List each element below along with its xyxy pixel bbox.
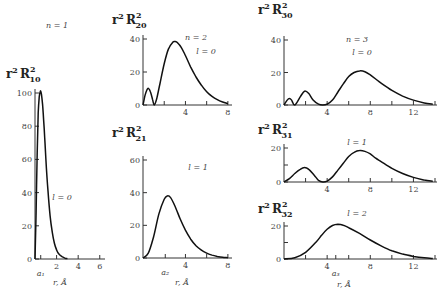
x-tick-label: 4 [183,261,188,270]
panel-r10: 020406080100a₁246r2R210n = 1l = 0r, Å [6,21,105,287]
x-axis-label: r, Å [337,280,351,289]
y-tick-label: 0 [276,178,281,187]
annotation-l: l = 0 [52,193,71,202]
y-tick-label: 0 [27,255,32,264]
y-tick-label: 60 [130,156,140,165]
series-line-r30 [284,71,433,105]
panel-r21: 0204060a₂48r2R221l = 1r, Å [112,123,232,287]
x-tick-label: 4 [76,262,81,271]
y-tick-label: 0 [276,255,281,264]
x-tick-label: 4 [325,262,330,271]
x-tick-label: 8 [368,262,373,271]
x-tick-label: 12 [408,108,418,117]
y-tick-label: 80 [22,122,32,131]
panel-title: n = 1 [46,21,68,30]
x-axis-label: r, Å [53,278,67,287]
series-line-r31 [284,151,433,182]
annotation-l: l = 0 [196,47,215,56]
x-tick-label: 12 [408,185,418,194]
y-tick-label: 40 [130,189,140,198]
radial-distribution-figure: 020406080100a₁246r2R210n = 1l = 0r, Å020… [0,0,445,296]
y-tick-label: 20 [271,144,281,153]
panel-r32: 0204a₃812r2R232l = 2r, Å [258,199,437,289]
y-tick-label: 20 [130,68,140,77]
y-tick-label: 40 [130,35,140,44]
x-tick-label: 6 [97,262,102,271]
y-axis-label: r2R210 [6,64,41,84]
y-axis-label: r2R232 [258,199,293,219]
y-tick-label: 20 [271,222,281,231]
x-tick-label: 8 [225,261,230,270]
y-axis-label: r2R221 [112,123,147,143]
x-tick-label: 2 [54,262,59,271]
y-tick-label: 40 [22,189,32,198]
panel-title: n = 3 [346,35,368,44]
panel-r20: 0204048r2R220n = 2l = 0 [112,10,232,117]
panel-r31: 0204812r2R231l = 1 [258,120,437,194]
y-tick-label: 20 [22,222,32,231]
annotation-l: l = 1 [347,138,366,147]
x-tick-label: a₁ [37,269,45,278]
series-line-r10 [35,91,67,259]
y-axis-label: r2R231 [258,120,293,140]
x-tick-label: a₂ [161,268,169,277]
x-tick-label: 4 [183,108,188,117]
x-tick-label: 4 [325,108,330,117]
y-axis-label: r2R230 [258,0,293,20]
x-tick-label: 8 [225,108,230,117]
y-tick-label: 40 [271,36,281,45]
y-tick-label: 20 [130,221,140,230]
x-tick-label: 12 [408,262,418,271]
x-tick-label: 8 [368,185,373,194]
x-tick-label: 4 [325,185,330,194]
y-axis-label: r2R220 [112,10,147,30]
x-tick-label: a₃ [332,269,340,278]
annotation-l: l = 1 [188,163,207,172]
y-tick-label: 60 [22,155,32,164]
annotation-l: l = 2 [347,209,366,218]
y-tick-label: 0 [276,101,281,110]
y-tick-label: 0 [135,101,140,110]
x-axis-label: r, Å [175,278,189,287]
series-line-r32 [284,224,433,259]
y-tick-label: 20 [271,69,281,78]
x-tick-label: 8 [368,108,373,117]
panel-r30: 020404812r2R230n = 3l = 0 [258,0,437,117]
annotation-l: l = 0 [352,48,371,57]
y-tick-label: 100 [17,89,32,98]
y-tick-label: 0 [135,254,140,263]
panel-title: n = 2 [185,33,207,42]
series-line-r21 [143,196,228,258]
